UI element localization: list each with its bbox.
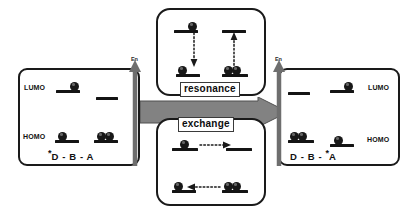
- right-donor-homo-electron-b: [298, 132, 307, 141]
- right-formula-tail: A: [329, 151, 336, 162]
- resonance-left-upper-electron: [188, 22, 197, 31]
- exchange-bottom-right-electron-b: [232, 182, 241, 191]
- right-acceptor-lumo-electron: [344, 82, 353, 91]
- right-acceptor-homo-level: [330, 144, 354, 147]
- energy-axis-label-right: En: [275, 56, 282, 62]
- energy-axis-left: [128, 58, 142, 166]
- right-donor-lumo-level: [288, 92, 310, 95]
- exchange-tag[interactable]: exchange: [178, 117, 234, 132]
- resonance-tag[interactable]: resonance: [180, 82, 240, 97]
- exchange-top-right-level: [226, 148, 252, 151]
- left-homo-label: HOMO: [23, 133, 45, 140]
- left-formula: *D - B - A: [48, 148, 94, 162]
- right-acceptor-homo-electron: [334, 136, 343, 145]
- resonance-left-lower-electron: [178, 66, 187, 75]
- left-acceptor-homo-electron-b: [105, 132, 114, 141]
- energy-axis-label-left: En: [131, 56, 138, 62]
- resonance-left-arrow-down: [190, 33, 198, 69]
- left-acceptor-lumo-level: [96, 97, 118, 100]
- resonance-right-arrow-up: [230, 31, 238, 69]
- right-homo-label: HOMO: [367, 136, 389, 143]
- left-formula-text: D - B - A: [52, 151, 95, 162]
- energy-axis-right: [272, 58, 286, 166]
- right-formula: D - B - *A: [290, 148, 336, 162]
- left-acceptor-homo-level: [94, 140, 118, 143]
- right-lumo-label: LUMO: [368, 84, 389, 91]
- resonance-right-lower-electron-b: [232, 66, 241, 75]
- right-formula-text: D - B -: [290, 151, 325, 162]
- left-lumo-label: LUMO: [24, 84, 45, 91]
- left-donor-lumo-electron: [70, 82, 79, 91]
- exchange-bottom-left-electron: [174, 182, 183, 191]
- figure-canvas: En LUMO HOMO *D - B - A resonance: [0, 0, 417, 214]
- left-donor-homo-electron: [58, 132, 67, 141]
- exchange-bottom-arrow-left: [186, 182, 220, 192]
- left-donor-homo-level: [55, 140, 79, 143]
- exchange-top-left-electron: [180, 140, 189, 149]
